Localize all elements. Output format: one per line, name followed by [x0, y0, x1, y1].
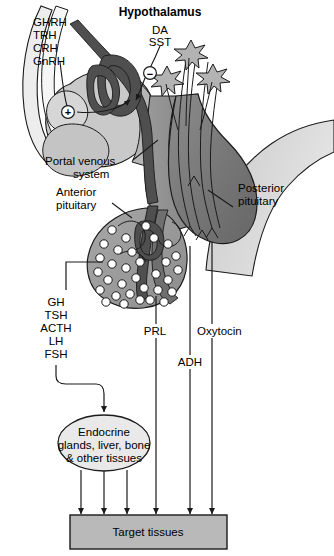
pituitary-cell: [96, 286, 104, 294]
pituitary-cell: [172, 252, 180, 260]
anterior-pituitary-label-group: Anterior pituitary: [56, 186, 97, 211]
pituitary-cell: [126, 290, 134, 298]
anterior-hormone-arrow: [56, 365, 104, 412]
pituitary-cell: [94, 268, 102, 276]
pituitary-cell: [152, 270, 160, 278]
stimulatory-sign-badge: +: [62, 106, 75, 119]
pituitary-cell: [128, 248, 136, 256]
releasing-hormone-trh: TRH: [33, 29, 57, 41]
endocrine-target-node: Endocrine glands, liver, bone & other ti…: [58, 415, 151, 471]
inhibiting-hormones-label-group: DA SST: [149, 24, 171, 48]
portal-venous-line-2: system: [73, 168, 109, 180]
adh-label: ADH: [178, 356, 202, 368]
pituitary-cell: [104, 276, 112, 284]
target-tissues-label: Target tissues: [113, 526, 184, 538]
pituitary-cell: [122, 234, 130, 242]
pituitary-cell: [102, 298, 110, 306]
pituitary-cell: [122, 264, 130, 272]
pituitary-cell: [140, 284, 148, 292]
endocrine-line-3: & other tissues: [66, 452, 142, 464]
page-title: Hypothalamus: [119, 5, 202, 19]
pituitary-cell: [132, 274, 140, 282]
pituitary-cell: [108, 226, 116, 234]
pituitary-cell: [162, 258, 170, 266]
pituitary-cell: [114, 246, 122, 254]
hypothalamus-pituitary-diagram: + −: [0, 0, 334, 556]
portal-venous-line-1: Portal venous: [45, 155, 116, 167]
inhibiting-hormone-sst: SST: [149, 36, 171, 48]
releasing-hormones-label-group: GHRH TRH CRH GnRH: [33, 16, 67, 67]
pituitary-cell: [142, 222, 150, 230]
releasing-hormone-crh: CRH: [33, 42, 58, 54]
releasing-hormone-ghrh: GHRH: [33, 16, 67, 28]
pituitary-cell: [160, 298, 168, 306]
minus-sign-label: −: [147, 68, 153, 80]
stellate-neuron-right: [196, 64, 230, 94]
pituitary-cell: [164, 240, 172, 248]
oxytocin-label: Oxytocin: [197, 325, 242, 337]
pituitary-cell: [168, 288, 176, 296]
anterior-hormone-tsh: TSH: [45, 309, 68, 321]
pituitary-cell: [96, 254, 104, 262]
inhibiting-hormone-leader: [150, 46, 160, 68]
posterior-pituitary-line-2: pituitary: [238, 195, 279, 207]
releasing-hormone-gnrh: GnRH: [33, 55, 65, 67]
pituitary-cell: [118, 280, 126, 288]
inhibiting-hormone-da: DA: [152, 24, 168, 36]
endocrine-line-1: Endocrine: [78, 426, 130, 438]
pituitary-cell: [108, 260, 116, 268]
anterior-hormones-label-group: GH TSH ACTH LH FSH: [40, 296, 71, 360]
target-tissues-node: Target tissues: [70, 515, 227, 549]
oxytocin-label-group: Oxytocin: [195, 324, 251, 338]
hypothalamic-neuron-bodies: [150, 40, 230, 96]
pituitary-cell: [174, 266, 182, 274]
anterior-pituitary-line-1: Anterior: [56, 186, 96, 198]
pituitary-cell: [146, 296, 154, 304]
posterior-pituitary-line-1: Posterior: [238, 182, 284, 194]
stellate-neuron-upper: [174, 40, 208, 70]
prl-label-group: PRL: [140, 324, 170, 338]
anterior-pituitary-line-2: pituitary: [56, 199, 97, 211]
prl-label: PRL: [144, 325, 167, 337]
anterior-hormone-lh: LH: [49, 335, 64, 347]
anterior-hormone-acth: ACTH: [40, 322, 71, 334]
anterior-hormone-fsh: FSH: [45, 348, 68, 360]
endocrine-line-2: glands, liver, bone: [58, 439, 151, 451]
pituitary-cell: [136, 258, 144, 266]
adh-label-group: ADH: [174, 355, 206, 369]
pituitary-cell: [164, 276, 172, 284]
pituitary-cell: [136, 296, 144, 304]
plus-sign-label: +: [65, 106, 71, 118]
inhibitory-sign-badge: −: [144, 67, 157, 80]
pituitary-cell: [150, 234, 158, 242]
pituitary-cell: [100, 240, 108, 248]
pituitary-cell: [112, 292, 120, 300]
diagram-canvas: + −: [0, 0, 334, 556]
posterior-pituitary-label-group: Posterior pituitary: [238, 182, 284, 207]
pituitary-cell: [154, 286, 162, 294]
pituitary-cell: [120, 300, 128, 308]
anterior-hormone-gh: GH: [47, 296, 64, 308]
